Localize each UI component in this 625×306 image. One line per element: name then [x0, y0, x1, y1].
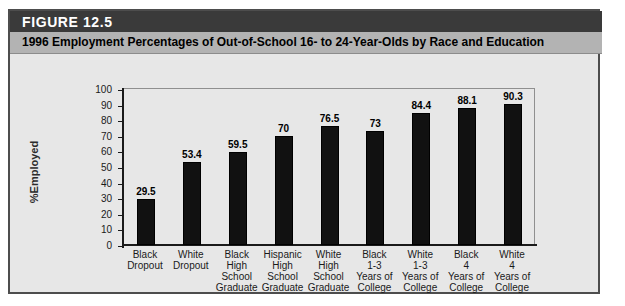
- figure-title: 1996 Employment Percentages of Out-of-Sc…: [22, 35, 544, 49]
- x-axis-category-line: Black: [443, 249, 489, 260]
- x-axis-category-line: Years of: [489, 271, 535, 282]
- y-axis-tick-label: 30: [82, 194, 112, 204]
- x-axis-category-line: Years of: [397, 271, 443, 282]
- x-axis-category-line: High: [306, 260, 352, 271]
- x-axis-category-line: Years of: [351, 271, 397, 282]
- bar: [366, 131, 384, 245]
- bar-value-label: 59.5: [216, 139, 260, 150]
- x-axis-category-line: Graduate: [306, 282, 352, 293]
- bar: [412, 113, 430, 245]
- bar-value-label: 90.3: [491, 91, 535, 102]
- x-axis-category-line: Graduate: [260, 282, 306, 293]
- x-axis-category-line: White: [168, 249, 214, 260]
- bar-value-label: 70: [262, 123, 306, 134]
- x-axis-category-label: BlackDropout: [122, 249, 168, 271]
- x-axis-category-line: Years of: [443, 271, 489, 282]
- x-axis-category-line: College: [489, 282, 535, 293]
- bar: [137, 199, 155, 245]
- x-axis-category-label: WhiteDropout: [168, 249, 214, 271]
- bar-value-label: 88.1: [445, 95, 489, 106]
- x-axis-category-label: Black4Years ofCollege: [443, 249, 489, 293]
- y-axis-tick-label: 90: [82, 101, 112, 111]
- x-axis-category-label: Black HighSchoolGraduate: [214, 249, 260, 293]
- bar: [321, 126, 339, 245]
- y-axis-tick: [118, 246, 123, 247]
- x-axis-category-line: 4: [443, 260, 489, 271]
- x-axis-category-label: White4Years ofCollege: [489, 249, 535, 293]
- x-axis-category-line: White: [489, 249, 535, 260]
- x-axis-category-line: White: [306, 249, 352, 260]
- y-axis-tick: [118, 121, 123, 122]
- y-axis-tick: [118, 230, 123, 231]
- x-axis-category-line: White: [397, 249, 443, 260]
- x-axis-category-line: Hispanic: [260, 249, 306, 260]
- x-axis-category-line: Dropout: [122, 260, 168, 271]
- figure-number-label: FIGURE 12.5: [22, 14, 113, 30]
- x-axis-category-line: Graduate: [214, 282, 260, 293]
- y-axis-tick-label: 10: [82, 225, 112, 235]
- y-axis-tick-label: 60: [82, 147, 112, 157]
- x-axis-category-line: 1-3: [351, 260, 397, 271]
- x-axis-category-line: College: [443, 282, 489, 293]
- x-axis-category-line: 4: [489, 260, 535, 271]
- x-axis-category-line: School: [306, 271, 352, 282]
- chart-canvas: %Employed 1009080706050403020100 29.553.…: [10, 54, 598, 292]
- y-axis-tick: [118, 106, 123, 107]
- x-axis-category-line: School: [260, 271, 306, 282]
- bar-value-label: 29.5: [124, 186, 168, 197]
- x-axis-category-line: College: [397, 282, 443, 293]
- bar: [275, 136, 293, 245]
- bar: [504, 104, 522, 245]
- y-axis-tick-label: 20: [82, 210, 112, 220]
- x-axis-category-line: College: [351, 282, 397, 293]
- y-axis-tick-label: 50: [82, 163, 112, 173]
- x-axis-category-line: School: [214, 271, 260, 282]
- bar-value-label: 76.5: [308, 113, 352, 124]
- figure-number-band: FIGURE 12.5: [10, 11, 602, 32]
- x-axis-category-line: Black: [122, 249, 168, 260]
- x-axis-category-line: Dropout: [168, 260, 214, 271]
- y-axis-tick-label: 0: [82, 241, 112, 251]
- x-axis-category-line: High: [260, 260, 306, 271]
- x-axis-category-line: Black High: [214, 249, 260, 271]
- bar: [458, 108, 476, 245]
- y-axis-tick-label: 80: [82, 116, 112, 126]
- y-axis-tick-label: 70: [82, 132, 112, 142]
- bar-value-label: 73: [353, 118, 397, 129]
- bar: [183, 162, 201, 245]
- x-axis-category-label: WhiteHighSchoolGraduate: [306, 249, 352, 293]
- y-axis-tick-label: 40: [82, 179, 112, 189]
- y-axis-tick: [118, 184, 123, 185]
- x-axis-category-label: HispanicHighSchoolGraduate: [260, 249, 306, 293]
- x-axis-category-label: Black1-3Years ofCollege: [351, 249, 397, 293]
- y-axis-tick-label: 100: [82, 85, 112, 95]
- y-axis-tick: [118, 152, 123, 153]
- y-axis-tick: [118, 199, 123, 200]
- y-axis-title: %Employed: [28, 112, 40, 232]
- bar: [229, 152, 247, 245]
- figure-title-band: 1996 Employment Percentages of Out-of-Sc…: [10, 32, 602, 54]
- figure-container: FIGURE 12.5 1996 Employment Percentages …: [8, 9, 600, 294]
- y-axis-tick: [118, 168, 123, 169]
- x-axis-category-label: White1-3Years ofCollege: [397, 249, 443, 293]
- y-axis-tick: [118, 90, 123, 91]
- y-axis-tick: [118, 215, 123, 216]
- y-axis-tick: [118, 137, 123, 138]
- x-axis-category-line: Black: [351, 249, 397, 260]
- bar-value-label: 84.4: [399, 100, 443, 111]
- bar-value-label: 53.4: [170, 149, 214, 160]
- x-axis-category-line: 1-3: [397, 260, 443, 271]
- plot-area: 1009080706050403020100 29.553.459.57076.…: [122, 88, 535, 246]
